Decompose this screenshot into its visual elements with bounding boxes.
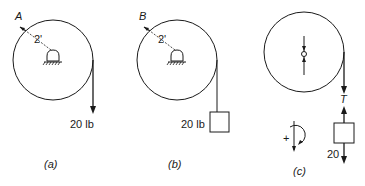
weight-block-b — [210, 112, 229, 132]
panel-c: T 20 + (c) — [264, 12, 354, 177]
sign-convention-icon — [290, 121, 305, 152]
pivot-support-icon — [43, 50, 62, 65]
radius-label-a: 2' — [34, 33, 42, 45]
panel-b: B 2' 20 lb (b) — [137, 10, 229, 170]
radius-label-b: 2' — [158, 33, 166, 45]
pivot-support-icon — [167, 50, 186, 65]
pulley-b — [137, 20, 217, 100]
point-label-a: A — [14, 10, 22, 22]
load-label-a: 20 lb — [70, 118, 94, 130]
caption-c: (c) — [293, 165, 306, 177]
weight-label-c: 20 — [327, 148, 339, 160]
weight-block-c — [334, 123, 354, 143]
axle-reaction-icon — [302, 36, 307, 75]
tension-label: T — [340, 93, 348, 105]
load-label-b: 20 lb — [181, 118, 205, 130]
caption-b: (b) — [168, 158, 182, 170]
panel-a: A 2' 20 lb (a) — [13, 10, 96, 170]
pulley-a — [13, 20, 93, 100]
caption-a: (a) — [44, 158, 58, 170]
sign-label: + — [283, 132, 289, 144]
point-label-b: B — [139, 10, 146, 22]
pulley-diagram: A 2' 20 lb (a) B 2' 20 lb (b) — [0, 0, 365, 186]
